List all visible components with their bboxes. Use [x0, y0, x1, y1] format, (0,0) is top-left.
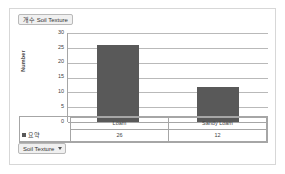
pivot-chart-frame[interactable]: 개수 Soil Texture Number 30 25 20 15 10 5 … [9, 8, 276, 165]
bar-loam[interactable] [97, 45, 139, 122]
y-tick-15: 15 [44, 74, 64, 80]
bar-slot-loam [68, 33, 168, 122]
chart-title-field-button[interactable]: 개수 Soil Texture [18, 14, 73, 25]
plot-area [67, 33, 268, 122]
bar-slot-sandy-loam [168, 33, 268, 122]
y-tick-20: 20 [44, 59, 64, 65]
y-axis-title: Number [20, 41, 26, 81]
soil-texture-filter-button[interactable]: Soil Texture [18, 143, 66, 154]
chart-title-label: 개수 Soil Texture [23, 17, 68, 23]
y-tick-10: 10 [44, 89, 64, 95]
bar-series [68, 33, 268, 122]
cell-sandy-loam-value: 12 [169, 130, 267, 142]
chevron-down-icon[interactable] [58, 147, 62, 150]
column-header-loam: Loam [71, 118, 169, 130]
column-header-sandy-loam: Sandy Loam [169, 118, 267, 130]
table-header-row: Loam Sandy Loam [20, 118, 267, 130]
legend-swatch-icon [22, 133, 26, 137]
filter-button-label: Soil Texture [23, 146, 54, 152]
legend-label: 요약 [28, 132, 40, 138]
y-tick-25: 25 [44, 45, 64, 51]
data-table: Loam Sandy Loam 요약 26 12 [19, 116, 268, 143]
legend-entry-summary: 요약 [20, 130, 71, 142]
cell-loam-value: 26 [71, 130, 169, 142]
y-tick-30: 30 [44, 30, 64, 36]
table-corner-blank [20, 118, 71, 130]
y-tick-5: 5 [44, 104, 64, 110]
table-row: 요약 26 12 [20, 130, 267, 142]
